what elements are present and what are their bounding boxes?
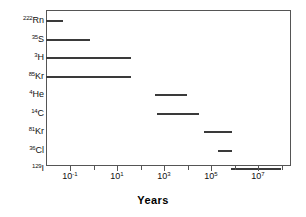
isotope-symbol: Rn xyxy=(32,15,44,25)
isotope-mass-number: 222 xyxy=(23,15,32,21)
range-bar-35S xyxy=(46,39,90,41)
x-tick-minor xyxy=(188,166,189,170)
x-tick-label-107: 107 xyxy=(251,172,264,182)
isotope-dating-range-chart: 222Rn35S3H85Kr4He14C81Kr36Cl129I 10-1101… xyxy=(0,0,306,217)
isotope-mass-number: 14 xyxy=(31,108,37,114)
isotope-mass-number: 36 xyxy=(29,145,35,151)
tick-mantissa: 10 xyxy=(251,171,261,181)
x-tick-label-101: 101 xyxy=(110,172,123,182)
y-axis-label-36Cl: 36Cl xyxy=(0,146,44,156)
tick-exponent: 3 xyxy=(167,171,170,177)
y-axis-label-14C: 14C xyxy=(0,109,44,119)
isotope-symbol: He xyxy=(32,89,44,99)
range-bar-129I xyxy=(231,168,282,170)
x-tick-minor xyxy=(141,166,142,170)
x-tick-label-105: 105 xyxy=(204,172,217,182)
tick-exponent: 7 xyxy=(261,171,264,177)
range-bar-222Rn xyxy=(46,20,63,22)
isotope-symbol: S xyxy=(38,34,44,44)
range-bar-36Cl xyxy=(218,150,232,152)
isotope-mass-number: 81 xyxy=(29,126,35,132)
y-axis-label-129I: 129I xyxy=(0,164,44,174)
x-tick-minor xyxy=(94,166,95,170)
y-axis-label-81Kr: 81Kr xyxy=(0,127,44,137)
y-axis-label-35S: 35S xyxy=(0,35,44,45)
range-bar-85Kr xyxy=(46,76,131,78)
tick-exponent: 1 xyxy=(120,171,123,177)
isotope-symbol: H xyxy=(38,52,45,62)
y-axis-label-85Kr: 85Kr xyxy=(0,72,44,82)
isotope-mass-number: 129 xyxy=(32,163,41,169)
tick-mantissa: 10 xyxy=(157,171,167,181)
isotope-mass-number: 85 xyxy=(29,71,35,77)
tick-mantissa: 10 xyxy=(204,171,214,181)
y-axis-category-labels: 222Rn35S3H85Kr4He14C81Kr36Cl129I xyxy=(0,0,44,217)
y-axis-label-222Rn: 222Rn xyxy=(0,16,44,26)
x-tick-minor xyxy=(235,166,236,170)
isotope-mass-number: 35 xyxy=(32,34,38,40)
range-bar-14C xyxy=(157,113,199,115)
range-bar-4He xyxy=(155,94,188,96)
range-bar-3H xyxy=(46,57,131,59)
x-tick-label-103: 103 xyxy=(157,172,170,182)
tick-exponent: 5 xyxy=(214,171,217,177)
isotope-symbol: Kr xyxy=(35,126,44,136)
isotope-mass-number: 3 xyxy=(34,52,37,58)
x-tick-label-10-1: 10-1 xyxy=(62,172,77,182)
x-axis-title: Years xyxy=(0,194,306,206)
tick-mantissa: 10 xyxy=(110,171,120,181)
isotope-symbol: C xyxy=(38,108,45,118)
y-axis-label-4He: 4He xyxy=(0,90,44,100)
x-tick-minor xyxy=(282,166,283,170)
tick-exponent: -1 xyxy=(72,171,77,177)
isotope-symbol: Cl xyxy=(36,145,45,155)
y-axis-label-3H: 3H xyxy=(0,53,44,63)
isotope-symbol: I xyxy=(41,163,44,173)
tick-mantissa: 10 xyxy=(62,171,72,181)
isotope-symbol: Kr xyxy=(35,71,44,81)
range-bar-81Kr xyxy=(204,131,232,133)
plot-area xyxy=(46,10,291,166)
